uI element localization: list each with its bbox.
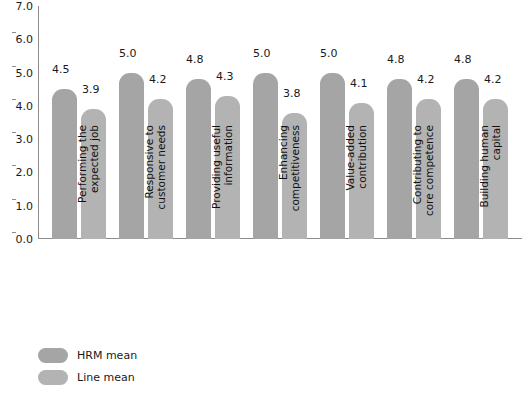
category-label: Building human capital — [478, 125, 502, 245]
bar-value-label: 5.0 — [253, 47, 271, 60]
clipped-top-text — [0, 0, 530, 5]
bar-value-label: 4.8 — [186, 53, 204, 66]
y-tick-2: 2.0 — [16, 166, 39, 179]
category-label: Value-added contribution — [344, 125, 368, 245]
bar-hrm — [454, 79, 479, 239]
bar-hrm — [186, 79, 211, 239]
bar-hrm — [119, 73, 144, 239]
bar-value-label: 4.5 — [52, 63, 70, 76]
y-tick-5: 5.0 — [16, 66, 39, 79]
category-label: Contributing to core competence — [411, 125, 435, 245]
category-label: Providing useful information — [210, 125, 234, 245]
bar-hrm — [387, 79, 412, 239]
y-tick-3: 3.0 — [16, 133, 39, 146]
bar-hrm — [320, 73, 345, 239]
category-label: Performing the expected job — [76, 125, 100, 245]
legend-item-line-mean: Line mean — [38, 366, 137, 388]
bar-value-label: 5.0 — [320, 47, 338, 60]
bar-value-label: 4.1 — [350, 77, 368, 90]
chart-container: 0.0 1.0 2.0 3.0 4.0 5.0 6.0 7.0 4.53.95.… — [0, 0, 530, 398]
legend-swatch-hrm — [38, 348, 68, 363]
legend-label-line: Line mean — [77, 371, 135, 384]
bar-value-label: 4.8 — [454, 53, 472, 66]
legend-label-hrm: HRM mean — [77, 349, 137, 362]
bar-value-label: 4.2 — [149, 73, 167, 86]
chart-legend: HRM mean Line mean — [38, 344, 137, 388]
category-label: Responsive to customer needs — [143, 125, 167, 245]
y-tick-4: 4.0 — [16, 99, 39, 112]
bar-value-label: 4.2 — [417, 73, 435, 86]
y-tick-6: 6.0 — [16, 33, 39, 46]
bar-value-label: 4.8 — [387, 53, 405, 66]
bar-value-label: 4.3 — [216, 70, 234, 83]
bar-hrm — [253, 73, 278, 239]
y-tick-0: 0.0 — [16, 233, 39, 246]
bar-value-label: 5.0 — [119, 47, 137, 60]
category-label: Enhancing competitiveness — [277, 125, 301, 245]
bar-value-label: 4.2 — [484, 73, 502, 86]
bar-hrm — [52, 89, 77, 239]
y-tick-1: 1.0 — [16, 199, 39, 212]
legend-swatch-line — [38, 370, 68, 385]
legend-item-hrm-mean: HRM mean — [38, 344, 137, 366]
bar-value-label: 3.8 — [283, 87, 301, 100]
bar-value-label: 3.9 — [82, 83, 100, 96]
